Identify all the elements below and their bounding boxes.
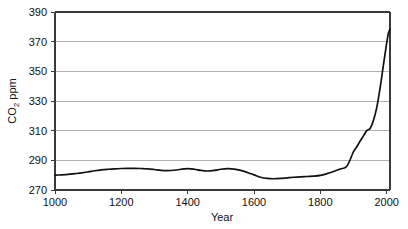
x-axis-tick-label: 2000 <box>374 196 398 208</box>
y-axis-tick-label: 350 <box>29 65 47 77</box>
y-axis-tick-label: 330 <box>29 95 47 107</box>
x-axis-tick-label: 1200 <box>109 196 133 208</box>
chart-background <box>0 0 408 229</box>
y-axis-title-tail: ppm <box>6 78 18 102</box>
co2-line-chart: 270290310330350370390 100012001400160018… <box>0 0 408 229</box>
y-axis-tick-label: 270 <box>29 184 47 196</box>
y-axis-tick-label: 310 <box>29 125 47 137</box>
y-axis-tick-label: 290 <box>29 154 47 166</box>
x-axis-tick-label: 1800 <box>308 196 332 208</box>
y-axis-title-main: CO <box>6 107 18 124</box>
x-axis-title: Year <box>211 211 234 223</box>
y-axis-tick-label: 390 <box>29 6 47 18</box>
x-axis-tick-label: 1400 <box>175 196 199 208</box>
chart-container: 270290310330350370390 100012001400160018… <box>0 0 408 229</box>
x-axis-tick-label: 1000 <box>43 196 67 208</box>
y-axis-tick-label: 370 <box>29 36 47 48</box>
x-axis-tick-label: 1600 <box>242 196 266 208</box>
